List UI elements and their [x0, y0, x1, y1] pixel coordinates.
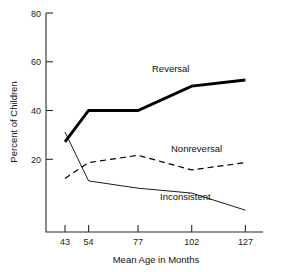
series-label-reversal: Reversal	[152, 63, 190, 74]
y-tick-label-80: 80	[31, 9, 41, 19]
x-tick-label-43: 43	[60, 237, 70, 247]
chart-canvas: 80 60 40 20 43 54 77 102 127 Mean Age in…	[0, 0, 285, 272]
x-tick-label-54: 54	[84, 237, 94, 247]
y-axis-ticks	[46, 13, 53, 159]
x-axis-title: Mean Age in Months	[113, 254, 200, 265]
y-axis-title: Percent of Children	[8, 81, 19, 162]
x-tick-label-127: 127	[238, 237, 253, 247]
series-line-nonreversal	[65, 155, 245, 178]
series-label-inconsistent: Inconsistent	[160, 191, 211, 202]
line-chart: 80 60 40 20 43 54 77 102 127 Mean Age in…	[0, 0, 285, 272]
series-line-reversal	[65, 80, 245, 142]
y-tick-label-40: 40	[31, 106, 41, 116]
y-tick-label-60: 60	[31, 57, 41, 67]
x-tick-label-77: 77	[133, 237, 143, 247]
x-tick-label-102: 102	[184, 237, 199, 247]
y-tick-label-20: 20	[31, 155, 41, 165]
series-label-nonreversal: Nonreversal	[171, 143, 222, 154]
x-axis-ticks	[65, 225, 245, 232]
